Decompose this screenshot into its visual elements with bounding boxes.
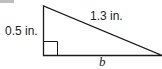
base-label: b [99,54,106,69]
hypotenuse-label: 1.3 in. [90,9,123,23]
right-angle-marker [44,42,58,56]
height-label: 0.5 in. [5,24,38,38]
